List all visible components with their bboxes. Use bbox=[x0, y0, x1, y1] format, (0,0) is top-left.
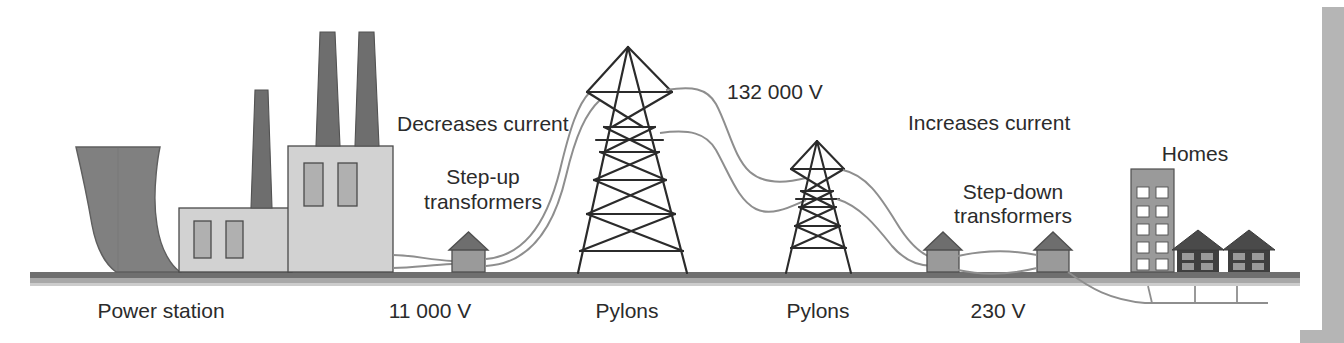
ground-line bbox=[30, 272, 1300, 286]
pylon-icon-1 bbox=[578, 47, 687, 273]
label-pylons-left: Pylons bbox=[595, 299, 658, 322]
label-step-up-transformers-line2: transformers bbox=[424, 190, 542, 213]
page-border bbox=[1300, 0, 1344, 343]
step-up-transformer-icon bbox=[449, 232, 488, 272]
main-building-window-1 bbox=[304, 163, 323, 206]
label-step-up-transformers-line1: Step-up bbox=[446, 165, 520, 188]
step-down-transformer-icon-2 bbox=[1034, 232, 1072, 272]
electricity-transmission-diagram: Decreases current Step-up transformers 1… bbox=[0, 0, 1344, 343]
label-increases-current: Increases current bbox=[908, 111, 1070, 134]
label-step-down-transformers-line1: Step-down bbox=[963, 180, 1063, 203]
power-line-station-to-stepup bbox=[393, 255, 452, 268]
power-line-pylon1-to-pylon2 bbox=[660, 88, 806, 212]
label-step-down-transformers-line2: transformers bbox=[954, 204, 1072, 227]
turbine-hall-window-1 bbox=[194, 221, 211, 258]
main-building-window-2 bbox=[338, 163, 357, 206]
diagram-canvas: Decreases current Step-up transformers 1… bbox=[0, 0, 1344, 343]
step-down-transformer-icon-1 bbox=[924, 232, 962, 272]
label-voltage-230: 230 V bbox=[971, 299, 1026, 322]
label-voltage-11000: 11 000 V bbox=[389, 299, 472, 322]
pylon-icon-2 bbox=[786, 141, 851, 273]
cooling-tower-icon bbox=[76, 147, 180, 272]
label-decreases-current: Decreases current bbox=[397, 112, 569, 135]
label-homes: Homes bbox=[1162, 142, 1229, 165]
power-line-between-stepdown bbox=[958, 251, 1037, 273]
homes-group bbox=[1131, 169, 1275, 272]
turbine-hall-window-2 bbox=[226, 221, 243, 258]
chimney-icon-2 bbox=[316, 32, 340, 146]
chimney-icon-3 bbox=[355, 32, 379, 146]
label-pylons-right: Pylons bbox=[786, 299, 849, 322]
power-station-group bbox=[76, 32, 393, 272]
house-icon-2 bbox=[1223, 230, 1275, 272]
house-icon-1 bbox=[1172, 230, 1224, 272]
chimney-icon-1 bbox=[251, 90, 272, 208]
apartment-block-icon bbox=[1131, 169, 1174, 272]
label-power-station: Power station bbox=[97, 299, 224, 322]
label-voltage-132000: 132 000 V bbox=[727, 80, 823, 103]
power-line-pylon2-to-stepdown bbox=[837, 170, 933, 266]
